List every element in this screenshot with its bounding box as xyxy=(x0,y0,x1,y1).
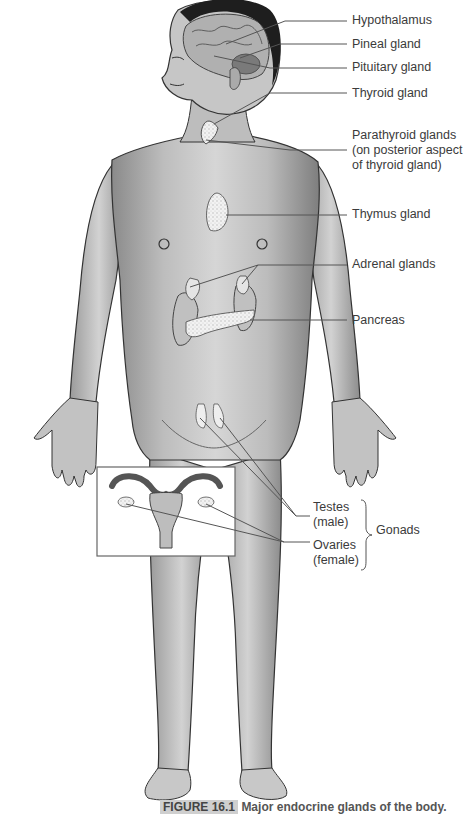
human-body xyxy=(34,0,396,800)
female-inset xyxy=(97,467,235,556)
ovaries-line-1: Ovaries xyxy=(313,538,359,553)
label-hypothalamus: Hypothalamus xyxy=(352,13,432,28)
parathyroid-line-3: of thyroid gland) xyxy=(352,158,462,173)
label-ovaries: Ovaries (female) xyxy=(313,538,359,568)
label-thyroid-gland: Thyroid gland xyxy=(352,86,428,101)
label-gonads: Gonads xyxy=(376,523,420,538)
label-pineal-gland: Pineal gland xyxy=(352,37,421,52)
testes-line-2: (male) xyxy=(313,515,349,530)
ovaries-line-2: (female) xyxy=(313,553,359,568)
parathyroid-line-1: Parathyroid glands xyxy=(352,128,462,143)
label-pancreas: Pancreas xyxy=(352,313,405,328)
label-pituitary-gland: Pituitary gland xyxy=(352,60,431,75)
figure-caption-text: Major endocrine glands of the body. xyxy=(241,800,446,814)
label-thymus-gland: Thymus gland xyxy=(352,207,431,222)
figure-caption: FIGURE 16.1 Major endocrine glands of th… xyxy=(160,800,447,814)
figure-number: FIGURE 16.1 xyxy=(160,800,238,814)
left-testis-shape xyxy=(196,404,206,428)
label-adrenal-glands: Adrenal glands xyxy=(352,257,435,272)
label-parathyroid-glands: Parathyroid glands (on posterior aspect … xyxy=(352,128,462,173)
parathyroid-line-2: (on posterior aspect xyxy=(352,143,462,158)
label-testes: Testes (male) xyxy=(313,500,349,530)
testes-line-1: Testes xyxy=(313,500,349,515)
